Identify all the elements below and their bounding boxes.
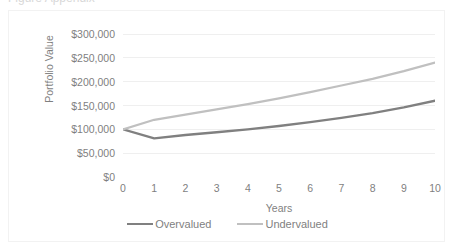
chart-container: Portfolio Value $0$50,000$100,000$150,00…	[8, 10, 445, 242]
x-tick-label: 5	[264, 182, 294, 194]
x-tick-label: 8	[358, 182, 388, 194]
legend-entry-overvalued[interactable]: Overvalued	[127, 218, 211, 230]
x-tick-label: 3	[202, 182, 232, 194]
y-tick-label: $150,000	[43, 101, 115, 111]
y-tick-label: $50,000	[43, 148, 115, 158]
cropped-header-sliver: Figure Appendix	[0, 0, 453, 9]
plot-area	[123, 34, 435, 177]
x-tick-label: 2	[170, 182, 200, 194]
series-line-overvalued	[123, 101, 435, 139]
y-tick-label: $250,000	[43, 53, 115, 63]
x-tick-label: 1	[139, 182, 169, 194]
legend-label: Undervalued	[265, 218, 327, 230]
legend-label: Overvalued	[155, 218, 211, 230]
x-tick-label: 6	[295, 182, 325, 194]
x-tick-label: 9	[389, 182, 419, 194]
y-tick-label: $0	[43, 172, 115, 182]
legend-line-swatch	[127, 223, 153, 225]
y-tick-label: $100,000	[43, 124, 115, 134]
chart-legend: OvervaluedUndervalued	[9, 218, 446, 230]
x-tick-label: 7	[326, 182, 356, 194]
x-tick-label: 10	[420, 182, 450, 194]
y-axis-tick-labels: $0$50,000$100,000$150,000$200,000$250,00…	[43, 34, 115, 177]
x-axis-tick-labels: 012345678910	[123, 182, 435, 196]
y-tick-label: $300,000	[43, 29, 115, 39]
x-axis-title: Years	[123, 202, 435, 214]
series-line-undervalued	[123, 63, 435, 130]
x-tick-label: 0	[108, 182, 138, 194]
y-tick-label: $200,000	[43, 77, 115, 87]
legend-entry-undervalued[interactable]: Undervalued	[237, 218, 327, 230]
plot-svg	[123, 34, 435, 177]
x-tick-label: 4	[233, 182, 263, 194]
cropped-header-text: Figure Appendix	[8, 0, 95, 5]
legend-line-swatch	[237, 223, 263, 225]
